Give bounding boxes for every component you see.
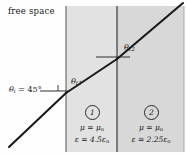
region-2-mu-subscript: o <box>160 126 163 132</box>
region-1-number: 1 <box>85 105 100 120</box>
theta-t1-label: θt1 <box>71 78 82 87</box>
region-1-properties: μ = μo ε = 4.5εo <box>67 124 117 147</box>
region-2-mu-value: = μ <box>144 123 160 132</box>
theta-t2-subscript: t2 <box>129 46 135 52</box>
refraction-diagram: free space θi = 45° θt1 θt2 1 2 μ = μo ε… <box>0 0 187 156</box>
theta-t1-subscript: t1 <box>76 80 82 86</box>
region-1-mu-subscript: o <box>101 126 104 132</box>
free-space-label: free space <box>8 7 55 16</box>
region-1-permittivity: ε = 4.5εo <box>67 136 117 145</box>
region-2-eps-value: = 2.25ε <box>136 135 168 144</box>
region-2-eps-subscript: o <box>167 138 170 144</box>
theta-incident-value: = 45° <box>16 85 42 94</box>
theta-t2-label: θt2 <box>124 44 135 53</box>
region-2-properties: μ = μo ε = 2.25εo <box>119 124 183 147</box>
region-1-mu-value: = μ <box>85 123 101 132</box>
theta-incident-label: θi = 45° <box>9 86 42 95</box>
region-2-permittivity: ε = 2.25εo <box>119 136 183 145</box>
region-2-number: 2 <box>144 105 159 120</box>
region-1-eps-subscript: o <box>106 138 109 144</box>
region-1-eps-value: = 4.5ε <box>79 135 106 144</box>
region-2-permeability: μ = μo <box>119 124 183 133</box>
region-1-permeability: μ = μo <box>67 124 117 133</box>
incident-ray <box>9 93 66 147</box>
